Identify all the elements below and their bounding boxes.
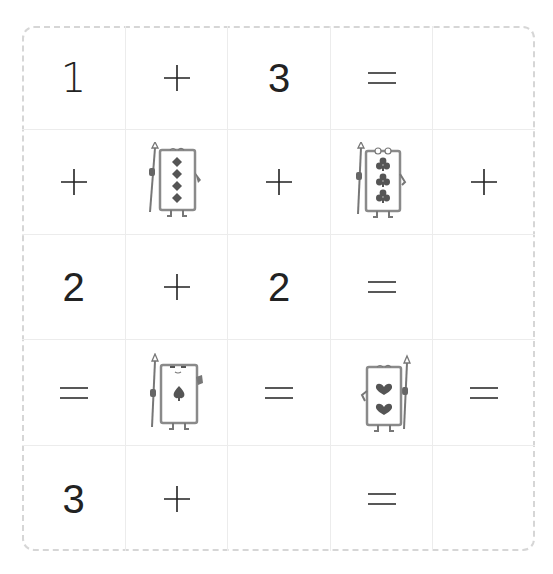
equals-icon xyxy=(367,280,397,294)
cell-r1-c2 xyxy=(126,26,228,130)
plus-icon xyxy=(162,63,192,93)
answer-cell-r5-c5[interactable] xyxy=(433,446,535,551)
number-value: 2 xyxy=(62,267,84,307)
plus-icon xyxy=(162,272,192,302)
equals-icon xyxy=(59,386,89,400)
cell-r3-c1: 2 xyxy=(22,235,126,340)
heart-card-character-icon xyxy=(346,353,418,433)
cell-r2-c1 xyxy=(22,130,126,235)
cell-r2-c3 xyxy=(228,130,331,235)
diamond-card-character-icon xyxy=(141,142,213,222)
cell-r4-c4 xyxy=(331,340,433,446)
equals-icon xyxy=(469,386,499,400)
cell-r1-c4 xyxy=(331,26,433,130)
cell-r2-c2 xyxy=(126,130,228,235)
plus-icon xyxy=(162,484,192,514)
cell-r5-c2 xyxy=(126,446,228,551)
spade-card-character-icon xyxy=(141,353,213,433)
cell-r5-c4 xyxy=(331,446,433,551)
cell-r4-c3 xyxy=(228,340,331,446)
answer-cell-r3[interactable] xyxy=(433,235,535,340)
number-value: 2 xyxy=(268,267,290,307)
puzzle-grid: 1 3 xyxy=(22,26,535,551)
equals-icon xyxy=(367,492,397,506)
cell-r4-c1 xyxy=(22,340,126,446)
club-card-character-icon xyxy=(346,142,418,222)
equals-icon xyxy=(367,71,397,85)
number-value: 1 xyxy=(61,58,86,98)
cell-r3-c4 xyxy=(331,235,433,340)
cell-r3-c2 xyxy=(126,235,228,340)
number-value: 3 xyxy=(268,58,290,98)
answer-cell-r1[interactable] xyxy=(433,26,535,130)
cell-r5-c1: 3 xyxy=(22,446,126,551)
number-value: 3 xyxy=(62,479,84,519)
cell-r1-c1: 1 xyxy=(22,26,126,130)
plus-icon xyxy=(469,167,499,197)
equals-icon xyxy=(264,386,294,400)
plus-icon xyxy=(59,167,89,197)
cell-r4-c2 xyxy=(126,340,228,446)
cell-r2-c4 xyxy=(331,130,433,235)
cell-r1-c3: 3 xyxy=(228,26,331,130)
cell-r4-c5 xyxy=(433,340,535,446)
cell-r3-c3: 2 xyxy=(228,235,331,340)
cell-r2-c5 xyxy=(433,130,535,235)
plus-icon xyxy=(264,167,294,197)
answer-cell-r5-c3[interactable] xyxy=(228,446,331,551)
